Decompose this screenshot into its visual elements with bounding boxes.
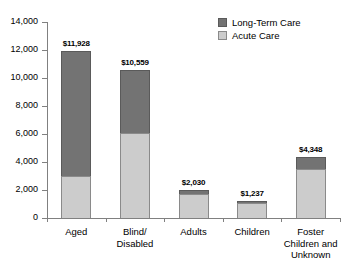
- legend-label-long-term-care: Long-Term Care: [232, 18, 301, 28]
- y-axis-tick-label: 0: [0, 213, 38, 222]
- bar-segment-acute-care[interactable]: [237, 203, 267, 218]
- bar-segment-acute-care[interactable]: [120, 133, 150, 218]
- stacked-bar-chart: 02,0004,0006,0008,00010,00012,00014,000 …: [0, 0, 347, 269]
- category-label-line: Unknown: [281, 249, 340, 261]
- stacked-bar[interactable]: [61, 51, 91, 218]
- legend-item-long-term-care: Long-Term Care: [218, 17, 301, 28]
- bar-value-label: $11,928: [63, 40, 90, 48]
- legend-label-acute-care: Acute Care: [232, 31, 280, 41]
- legend-swatch-long-term-care: [218, 18, 227, 27]
- bar-group: $1,237: [237, 22, 267, 218]
- y-axis-tick-label: 10,000: [0, 73, 38, 82]
- stacked-bar[interactable]: [179, 190, 209, 218]
- bar-group: $10,559: [120, 22, 150, 218]
- y-axis-tick-label: 8,000: [0, 101, 38, 110]
- legend-swatch-acute-care: [218, 31, 227, 40]
- y-axis-tick-label: 2,000: [0, 185, 38, 194]
- category-label-line: Children and: [281, 238, 340, 250]
- category-label: Children: [223, 226, 282, 238]
- category-label: Blind/Disabled: [106, 226, 165, 249]
- bar-value-label: $1,237: [240, 190, 263, 198]
- bar-segment-acute-care[interactable]: [296, 169, 326, 218]
- bar-segment-acute-care[interactable]: [179, 194, 209, 218]
- x-axis-line: [47, 218, 340, 219]
- x-axis-tick: [281, 218, 282, 222]
- y-axis-tick-label: 6,000: [0, 129, 38, 138]
- x-axis-tick: [164, 218, 165, 222]
- bar-value-label: $2,030: [182, 179, 205, 187]
- stacked-bar[interactable]: [120, 70, 150, 218]
- x-axis-tick: [106, 218, 107, 222]
- chart-legend: Long-Term Care Acute Care: [218, 17, 301, 43]
- category-label-line: Adults: [164, 226, 223, 238]
- category-label-line: Disabled: [106, 238, 165, 250]
- plot-area: $11,928$10,559$2,030$1,237$4,348: [47, 22, 340, 218]
- legend-item-acute-care: Acute Care: [218, 30, 301, 41]
- bar-group: $2,030: [179, 22, 209, 218]
- bar-segment-long-term-care[interactable]: [296, 157, 326, 169]
- bar-value-label: $10,559: [121, 59, 149, 67]
- category-label-line: Aged: [47, 226, 106, 238]
- bar-segment-long-term-care[interactable]: [120, 70, 150, 133]
- stacked-bar[interactable]: [296, 157, 326, 218]
- bar-segment-acute-care[interactable]: [61, 176, 91, 218]
- y-axis-tick-label: 12,000: [0, 45, 38, 54]
- y-axis-tick-label: 4,000: [0, 157, 38, 166]
- category-label-line: Blind/: [106, 226, 165, 238]
- category-label: FosterChildren andUnknown: [281, 226, 340, 261]
- bar-group: $11,928: [61, 22, 91, 218]
- category-label-line: Children: [223, 226, 282, 238]
- category-label: Adults: [164, 226, 223, 238]
- category-label-line: Foster: [281, 226, 340, 238]
- bar-segment-long-term-care[interactable]: [61, 51, 91, 176]
- bar-value-label: $4,348: [299, 146, 322, 154]
- x-axis-tick: [223, 218, 224, 222]
- x-axis-tick: [47, 218, 48, 222]
- x-axis-tick: [340, 218, 341, 222]
- y-axis-tick-label: 14,000: [0, 17, 38, 26]
- category-label: Aged: [47, 226, 106, 238]
- stacked-bar[interactable]: [237, 201, 267, 218]
- bar-group: $4,348: [296, 22, 326, 218]
